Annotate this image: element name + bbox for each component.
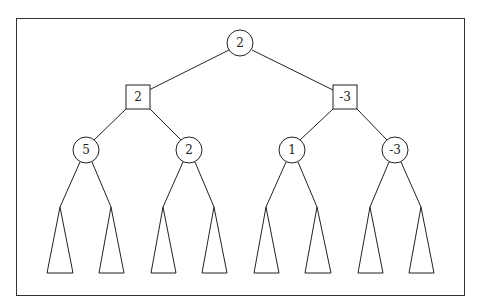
subtree-triangle xyxy=(99,207,124,273)
subtree-triangle xyxy=(409,207,434,273)
svg-text:-3: -3 xyxy=(339,90,351,104)
max-node-2: 2 xyxy=(176,137,202,163)
root-node: 2 xyxy=(227,30,253,56)
max-node-1: 5 xyxy=(73,137,99,163)
subtree-triangles xyxy=(47,207,434,273)
svg-text:1: 1 xyxy=(288,143,296,157)
svg-text:5: 5 xyxy=(82,143,90,157)
subtree-triangle xyxy=(305,207,331,273)
edges xyxy=(60,50,421,207)
game-tree-diagram: 2 2 -3 5 2 1 -3 xyxy=(0,0,489,305)
min-node-left: 2 xyxy=(126,85,150,109)
min-node-right: -3 xyxy=(333,85,357,109)
subtree-triangle xyxy=(47,207,73,273)
subtree-triangle xyxy=(151,207,176,273)
svg-text:2: 2 xyxy=(134,90,142,104)
subtree-triangle xyxy=(202,207,227,273)
subtree-triangle xyxy=(358,207,383,273)
svg-text:2: 2 xyxy=(236,36,244,50)
max-node-4: -3 xyxy=(382,137,408,163)
svg-text:-3: -3 xyxy=(389,143,401,157)
max-node-3: 1 xyxy=(279,137,305,163)
svg-text:2: 2 xyxy=(185,143,193,157)
subtree-triangle xyxy=(254,207,279,273)
